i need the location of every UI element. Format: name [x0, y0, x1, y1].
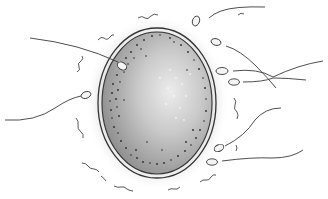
sperm-right-2: [216, 61, 323, 77]
fertilization-illustration: [0, 0, 328, 199]
sperm-top-right: [191, 7, 265, 27]
sperm-lower-right-2: [207, 150, 304, 165]
sperm-right-3: [229, 78, 307, 85]
sperm-left: [5, 90, 92, 120]
illustration-canvas: egg cell surrounded by sperm cells: [0, 0, 328, 199]
